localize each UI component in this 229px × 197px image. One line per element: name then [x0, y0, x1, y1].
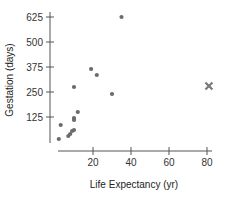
- data-point: [110, 92, 114, 96]
- x-tick-label: 80: [201, 157, 213, 168]
- y-tick-label: 375: [26, 62, 43, 73]
- x-axis-title: Life Expectancy (yr): [90, 179, 178, 190]
- y-axis: 125250375500625: [26, 12, 54, 144]
- y-tick-label: 250: [26, 87, 43, 98]
- y-axis-title: Gestation (days): [4, 43, 15, 116]
- data-point: [119, 15, 123, 19]
- x-axis: 20406080: [58, 147, 213, 168]
- x-tick-label: 60: [163, 157, 175, 168]
- y-tick-label: 625: [26, 12, 43, 23]
- data-point: [95, 73, 99, 77]
- data-point: [76, 110, 80, 114]
- data-point: [72, 85, 76, 89]
- outlier-x-marker: [205, 83, 212, 90]
- y-tick-label: 500: [26, 37, 43, 48]
- data-point: [57, 137, 61, 141]
- data-point: [72, 116, 76, 120]
- data-point: [89, 67, 93, 71]
- data-points: [57, 15, 213, 141]
- y-tick-label: 125: [26, 112, 43, 123]
- data-point: [72, 128, 76, 132]
- x-tick-label: 20: [87, 157, 99, 168]
- scatter-chart: 125250375500625 20406080 Gestation (days…: [0, 0, 229, 197]
- x-tick-label: 40: [125, 157, 137, 168]
- data-point: [59, 123, 63, 127]
